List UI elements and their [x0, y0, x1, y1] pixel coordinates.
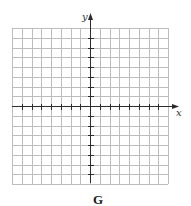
- y-axis-arrow-icon: [88, 13, 93, 20]
- y-axis-label: y: [82, 12, 88, 22]
- figure-label: G: [90, 193, 106, 206]
- x-axis-label: x: [176, 108, 182, 118]
- coordinate-grid: [0, 0, 191, 206]
